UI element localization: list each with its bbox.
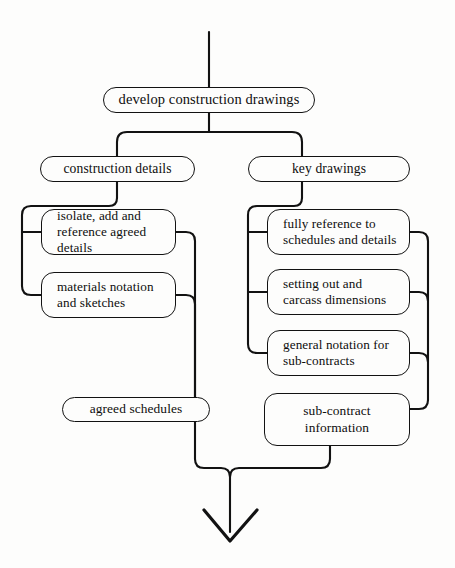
- node-materials-notation-sketches[interactable]: materials notationand sketches: [41, 272, 176, 318]
- node-label-line1: general notation for: [283, 337, 389, 352]
- node-label: agreed schedules: [63, 401, 209, 417]
- node-label: materials notationand sketches: [42, 279, 175, 311]
- node-isolate-add-reference[interactable]: isolate, add andreference agreed details: [41, 209, 176, 255]
- node-label: fully reference toschedules and details: [268, 216, 409, 248]
- node-develop-construction-drawings[interactable]: develop construction drawings: [103, 87, 315, 113]
- node-label-line2: reference agreed details: [57, 224, 146, 255]
- node-label: develop construction drawings: [104, 91, 314, 109]
- node-sub-contract-information[interactable]: sub-contractinformation: [264, 393, 410, 446]
- node-label: sub-contractinformation: [265, 403, 409, 436]
- node-label-line2: and sketches: [57, 295, 125, 310]
- node-label: isolate, add andreference agreed details: [42, 208, 175, 256]
- node-label-line2: sub-contracts: [283, 353, 355, 368]
- node-label-line1: materials notation: [57, 279, 154, 294]
- node-label: key drawings: [249, 161, 409, 178]
- node-general-notation-sub-contracts[interactable]: general notation forsub-contracts: [267, 330, 410, 376]
- node-label: construction details: [41, 161, 194, 178]
- connector-right-collector-tap-3: [410, 353, 428, 362]
- node-fully-reference-schedules[interactable]: fully reference toschedules and details: [267, 209, 410, 255]
- connector-arrowhead: [204, 510, 257, 541]
- flowchart-canvas: develop construction drawings constructi…: [0, 0, 455, 568]
- node-setting-out-carcass-dimensions[interactable]: setting out andcarcass dimensions: [267, 269, 410, 315]
- connector-merge-right: [230, 446, 330, 477]
- connector-merge-left: [195, 422, 230, 532]
- connector-split-bar: [117, 132, 302, 157]
- node-label: general notation forsub-contracts: [268, 337, 409, 369]
- node-label-line2: schedules and details: [283, 232, 396, 247]
- node-label-line1: setting out and: [283, 276, 362, 291]
- connector-right-collector-into-out: [410, 400, 428, 409]
- node-agreed-schedules[interactable]: agreed schedules: [62, 397, 210, 422]
- connector-left-collector: [176, 232, 195, 400]
- node-label-line1: sub-contract: [303, 403, 370, 418]
- connector-right-collector-tap-2: [410, 292, 428, 301]
- node-key-drawings[interactable]: key drawings: [248, 156, 410, 182]
- node-label-line1: isolate, add and: [57, 208, 141, 223]
- node-label: setting out andcarcass dimensions: [268, 276, 409, 308]
- node-label-line2: information: [305, 420, 369, 435]
- node-label-line2: carcass dimensions: [283, 292, 386, 307]
- connector-right-collector-1: [410, 232, 428, 400]
- node-label-line1: fully reference to: [283, 216, 376, 231]
- node-construction-details[interactable]: construction details: [40, 156, 195, 182]
